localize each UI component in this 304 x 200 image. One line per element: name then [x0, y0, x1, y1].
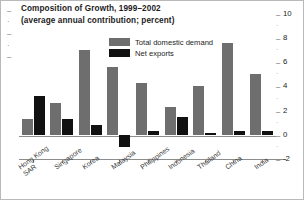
x-axis-label-india: India: [253, 156, 270, 171]
y-tick-dash-icon: –: [276, 34, 280, 43]
y-tick-dash-icon: –: [276, 10, 280, 19]
x-axis-label-malaysia: Malaysia: [110, 149, 137, 172]
y-axis-tick-label: 4: [283, 81, 287, 90]
chart-legend: Total domestic demand Net exports: [109, 37, 213, 59]
y-axis-tick-label: 10: [283, 9, 292, 18]
y-axis-minor-tick: ·: [276, 95, 278, 102]
legend-item-net-exports: Net exports: [109, 48, 213, 58]
y-tick-dash-icon: –: [276, 82, 280, 91]
y-axis-tick-label: 8: [283, 33, 287, 42]
x-axis-label-thailand: Thailand: [196, 149, 222, 171]
legend-item-total-domestic-demand: Total domestic demand: [109, 37, 213, 47]
x-axis-label-korea: Korea: [81, 154, 101, 171]
legend-label-net-exports: Net exports: [135, 49, 174, 58]
x-axis-label-hong-kong-sar: Hong KongSAR: [17, 144, 55, 178]
legend-label-total-domestic-demand: Total domestic demand: [135, 38, 213, 47]
y-axis: –-2·–0·–2·–4·–6·–8·–10: [276, 1, 304, 200]
y-tick-dash-icon: –: [276, 107, 280, 116]
x-axis-label-singapore: Singapore: [53, 146, 84, 171]
x-axis-label-indonesia: Indonesia: [167, 147, 196, 171]
y-axis-minor-tick: ·: [276, 70, 278, 77]
y-axis-minor-tick: ·: [276, 143, 278, 150]
legend-swatch-icon-total-domestic-demand: [109, 38, 130, 46]
chart-figure: Composition of Growth, 1999–2002 (averag…: [0, 0, 304, 200]
x-axis-label-china: China: [224, 154, 244, 171]
y-tick-dash-icon: –: [276, 58, 280, 67]
y-axis-tick-label: 6: [283, 57, 287, 66]
y-axis-minor-tick: ·: [276, 46, 278, 53]
y-axis-tick-label: 0: [283, 130, 287, 139]
x-axis-labels: Hong KongSARSingaporeKoreaMalaysiaPhilip…: [1, 1, 304, 200]
y-axis-tick-label: 2: [283, 106, 287, 115]
y-tick-dash-icon: –: [276, 131, 280, 140]
legend-swatch-icon-net-exports: [109, 49, 130, 57]
y-axis-tick-label: -2: [283, 154, 290, 163]
y-axis-minor-tick: ·: [276, 119, 278, 126]
y-axis-minor-tick: ·: [276, 22, 278, 29]
x-axis-label-philippines: Philippines: [139, 145, 171, 171]
y-tick-dash-icon: –: [276, 155, 280, 164]
